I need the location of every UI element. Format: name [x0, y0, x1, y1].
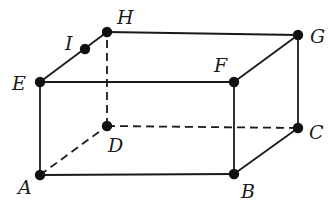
point-c-dot: [293, 123, 303, 133]
point-h-dot: [102, 27, 112, 37]
point-g-dot: [293, 30, 303, 40]
edge-dc-hidden: [107, 126, 298, 128]
point-b-label: B: [240, 180, 255, 202]
point-a-dot: [35, 170, 45, 180]
edge-fg: [234, 35, 298, 82]
prism-figure: ABCDEFGHI: [0, 0, 335, 208]
point-h-label: H: [116, 6, 134, 28]
prism-diagram: ABCDEFGHI: [0, 0, 335, 208]
edge-ab: [40, 174, 234, 175]
point-e-label: E: [11, 72, 26, 94]
point-a-label: A: [16, 176, 32, 198]
point-b-dot: [229, 169, 239, 179]
point-e-dot: [35, 77, 45, 87]
edge-gh: [107, 32, 298, 35]
edge-ad-hidden: [40, 126, 107, 175]
edges-layer: [40, 32, 298, 175]
point-d-label: D: [107, 134, 123, 156]
points-layer: [35, 27, 303, 180]
edge-eh: [40, 32, 107, 82]
point-d-dot: [102, 121, 112, 131]
point-i-dot: [80, 44, 90, 54]
edge-bc: [234, 128, 298, 174]
point-f-dot: [229, 77, 239, 87]
point-c-label: C: [309, 121, 324, 143]
point-i-label: I: [64, 32, 73, 54]
point-g-label: G: [310, 25, 325, 47]
point-f-label: F: [213, 54, 228, 76]
